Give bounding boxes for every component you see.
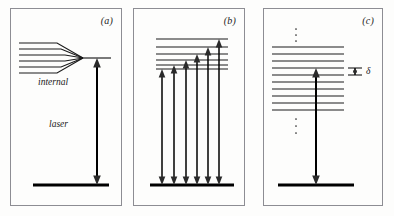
transition-arrow-3 bbox=[183, 60, 190, 185]
transition-arrow-2 bbox=[171, 65, 178, 185]
transition-arrow-6 bbox=[216, 39, 223, 185]
ellipsis-below-icon bbox=[295, 118, 297, 134]
laser-transition-arrow bbox=[93, 58, 101, 185]
ellipsis-above-icon bbox=[295, 28, 297, 42]
ladder-levels bbox=[156, 39, 228, 69]
internal-level-fan bbox=[19, 43, 83, 73]
panel-a-graphic bbox=[11, 9, 123, 207]
ladder-levels bbox=[272, 47, 344, 110]
transition-arrow-5 bbox=[205, 47, 212, 185]
transition-arrows bbox=[159, 39, 223, 185]
transition-arrow-4 bbox=[194, 54, 201, 185]
caption-internal: internal bbox=[38, 77, 68, 87]
caption-laser: laser bbox=[49, 119, 68, 129]
transition-arrow-1 bbox=[159, 69, 166, 185]
delta-spacing-marker bbox=[348, 68, 362, 75]
panel-a: (a) internal laser bbox=[10, 8, 122, 206]
transition-arrow bbox=[312, 68, 320, 185]
figure-canvas: (a) internal laser bbox=[0, 0, 394, 216]
panel-b: (b) bbox=[133, 8, 245, 206]
panel-c-graphic: δ bbox=[264, 9, 384, 207]
delta-label: δ bbox=[366, 66, 371, 76]
panel-c: (c) bbox=[263, 8, 383, 206]
panel-b-graphic bbox=[134, 9, 246, 207]
